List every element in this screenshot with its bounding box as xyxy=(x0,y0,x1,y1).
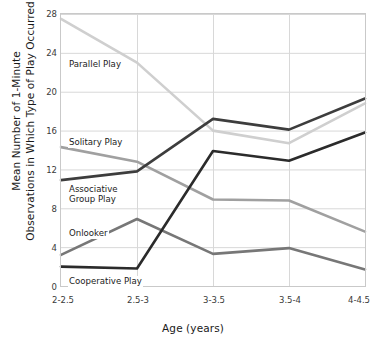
line-chart: Mean Number of 1-Minute Observations in … xyxy=(0,0,386,343)
x-axis-title: Age (years) xyxy=(0,322,386,334)
series-label-solitary-play: Solitary Play xyxy=(68,137,123,148)
x-axis-ticks: 2-2.5 2.5-3 3-3.5 3.5-4 4-4.5 xyxy=(0,0,386,343)
x-tick-4-4.5: 4-4.5 xyxy=(331,296,386,305)
series-label-associative-2: Group Play xyxy=(68,194,117,205)
series-label-parallel-play: Parallel Play xyxy=(68,59,122,70)
x-tick-3.5-4: 3.5-4 xyxy=(262,296,318,305)
series-label-cooperative-play: Cooperative Play xyxy=(68,276,143,287)
series-label-onlooker: Onlooker xyxy=(68,228,109,239)
series-label-associative-1: Associative xyxy=(68,184,119,195)
x-tick-3-3.5: 3-3.5 xyxy=(186,296,242,305)
x-tick-2.5-3: 2.5-3 xyxy=(110,296,166,305)
x-tick-2-2.5: 2-2.5 xyxy=(35,296,91,305)
